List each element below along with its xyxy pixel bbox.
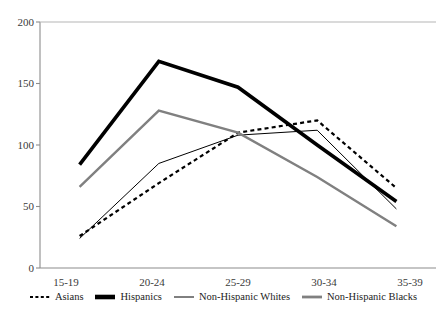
xtick-label-30-34: 30-34 [296, 277, 352, 288]
xtick-label-25-29: 25-29 [210, 277, 266, 288]
ytick-label-100: 100 [4, 140, 34, 151]
legend-label-hispanics: Hispanics [120, 291, 161, 303]
xtick-label-20-24: 20-24 [124, 277, 180, 288]
data-series-group [80, 61, 397, 238]
y-tick-marks [36, 22, 40, 268]
chart-legend: Asians Hispanics Non-Hispanic Whites [0, 289, 446, 305]
legend-label-non-hispanic-whites: Non-Hispanic Whites [199, 291, 290, 303]
series-line-asians [80, 120, 397, 236]
thick-black-line-swatch [94, 292, 116, 302]
xtick-label-35-39: 35-39 [382, 277, 438, 288]
ytick-label-0: 0 [4, 263, 34, 274]
legend-label-asians: Asians [55, 291, 84, 303]
ytick-label-50: 50 [4, 201, 34, 212]
dotted-line-swatch [29, 292, 51, 302]
legend-item-non-hispanic-blacks: Non-Hispanic Blacks [301, 291, 417, 303]
gray-line-swatch [301, 292, 323, 302]
plot-area [0, 0, 446, 309]
ytick-label-200: 200 [4, 17, 34, 28]
legend-item-asians: Asians [29, 291, 84, 303]
line-chart: 200 150 100 50 0 15-19 20-24 25-29 30-34… [0, 0, 446, 309]
legend-item-hispanics: Hispanics [94, 291, 161, 303]
xtick-label-15-19: 15-19 [38, 277, 94, 288]
ytick-label-150: 150 [4, 78, 34, 89]
thin-black-line-swatch [173, 292, 195, 302]
legend-item-non-hispanic-whites: Non-Hispanic Whites [173, 291, 290, 303]
legend-label-non-hispanic-blacks: Non-Hispanic Blacks [327, 291, 417, 303]
